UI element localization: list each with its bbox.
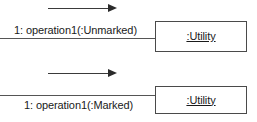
arrow-shaft-icon bbox=[48, 8, 110, 9]
direction-arrow-marked bbox=[48, 67, 118, 81]
message-label-unmarked: 1: operation1(:Unmarked) bbox=[14, 24, 137, 37]
link-line-marked bbox=[0, 95, 156, 96]
arrow-shaft-icon bbox=[48, 73, 110, 74]
object-name-label: :Utility bbox=[186, 30, 215, 43]
object-box-utility-unmarked[interactable]: :Utility bbox=[155, 21, 247, 52]
object-box-utility-marked[interactable]: :Utility bbox=[155, 86, 247, 114]
arrow-head-icon bbox=[108, 4, 117, 12]
communication-diagram-marked: 1: operation1(:Marked) :Utility bbox=[0, 61, 257, 122]
link-line-unmarked bbox=[0, 38, 156, 39]
direction-arrow-unmarked bbox=[48, 2, 118, 16]
object-name-label: :Utility bbox=[186, 94, 215, 107]
communication-diagram-unmarked: 1: operation1(:Unmarked) :Utility bbox=[0, 0, 257, 61]
arrow-head-icon bbox=[108, 69, 117, 77]
diagram-canvas: 1: operation1(:Unmarked) :Utility 1: ope… bbox=[0, 0, 257, 122]
message-label-marked: 1: operation1(:Marked) bbox=[24, 99, 133, 112]
